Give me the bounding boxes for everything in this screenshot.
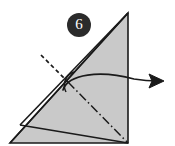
- step-number-label: 6: [75, 16, 83, 32]
- diagram-canvas: 6: [0, 0, 175, 146]
- origami-step-diagram: 6: [0, 0, 175, 146]
